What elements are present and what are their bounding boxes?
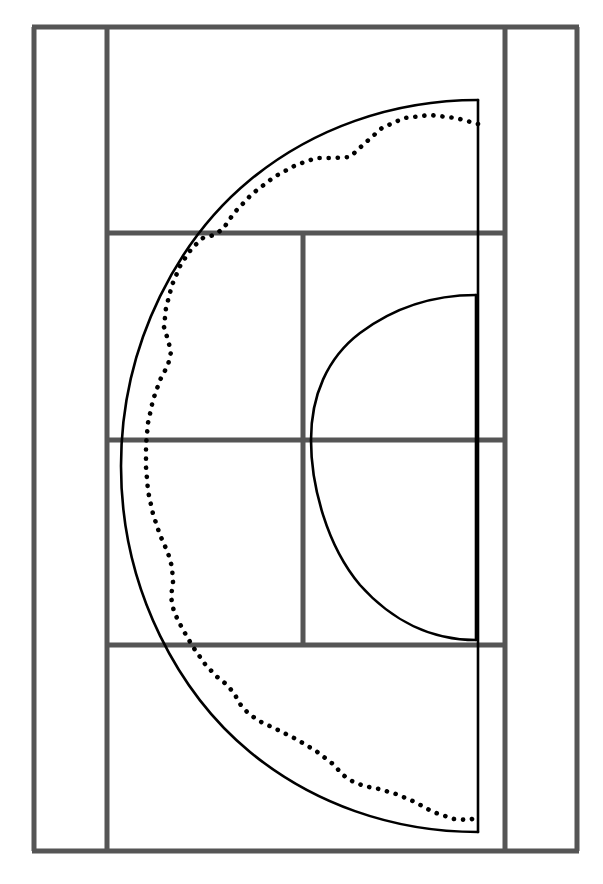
tennis-court-diagram [0, 0, 603, 884]
court-svg [0, 0, 603, 884]
